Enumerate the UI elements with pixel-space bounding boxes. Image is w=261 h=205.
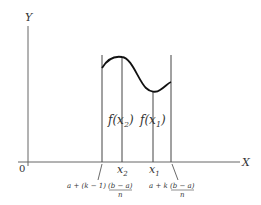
right-interval-prefix: a + k [149,182,168,190]
x-axis-label: X [241,156,251,169]
left-pointer [98,164,102,180]
f-x2-label: f(x2) [107,113,134,129]
subinterval-diagram: Y X 0 f(x2) f(x1) x2 x1 a + (k − 1) (b −… [0,0,261,205]
left-interval-denom: n [118,191,123,199]
x1-tick-label: x1 [149,163,160,178]
right-pointer [172,164,178,180]
origin-label: 0 [19,163,25,174]
right-interval-numer: (b − a) [170,182,195,190]
y-axis-label: Y [25,11,34,24]
f-x1-label: f(x1) [139,113,166,129]
right-interval-denom: n [180,191,185,199]
diagram-canvas: Y X 0 f(x2) f(x1) x2 x1 a + (k − 1) (b −… [0,0,261,205]
function-curve [102,57,171,92]
left-interval-numer: (b − a) [108,182,133,190]
x2-tick-label: x2 [117,163,128,178]
left-interval-prefix: a + (k − 1) [67,182,106,190]
